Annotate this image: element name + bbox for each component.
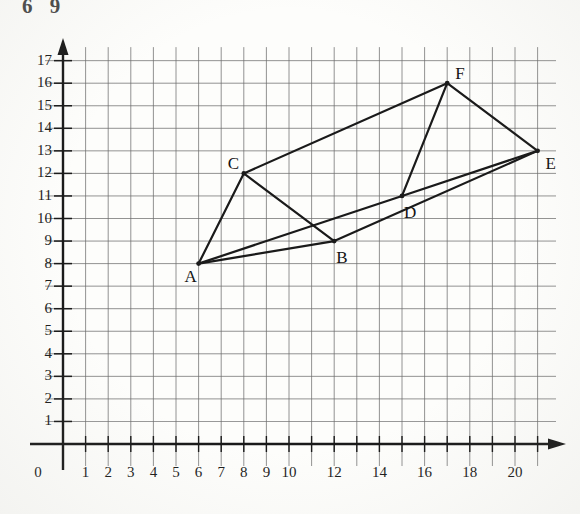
origin-label-0: 0: [27, 465, 49, 480]
y-tick-label-13: 13: [20, 143, 52, 158]
vertex-A: [196, 261, 201, 266]
vertex-label-D: D: [404, 204, 416, 221]
x-tick-label-14: 14: [367, 465, 391, 480]
y-tick-label-3: 3: [20, 368, 52, 383]
y-tick-label-14: 14: [20, 120, 52, 135]
vertex-label-F: F: [455, 65, 464, 82]
vertex-label-E: E: [546, 155, 556, 172]
y-tick-label-6: 6: [20, 301, 52, 316]
figure-edge-AD: [199, 196, 402, 264]
y-tick-label-11: 11: [20, 188, 52, 203]
x-tick-label-3: 3: [119, 465, 143, 480]
x-tick-label-12: 12: [322, 465, 346, 480]
vertex-D: [400, 194, 405, 199]
grid-lines: [45, 47, 556, 466]
vertex-F: [445, 81, 450, 86]
vertex-C: [241, 171, 246, 176]
x-tick-label-6: 6: [187, 465, 211, 480]
y-tick-label-4: 4: [20, 346, 52, 361]
scanned-page: 6 9 1234567891011121314151617 0123456789…: [0, 0, 580, 514]
y-tick-label-5: 5: [20, 323, 52, 338]
vertex-label-A: A: [185, 268, 197, 285]
x-tick-label-2: 2: [96, 465, 120, 480]
y-tick-label-9: 9: [20, 233, 52, 248]
vertex-E: [535, 148, 540, 153]
x-tick-label-1: 1: [74, 465, 98, 480]
y-tick-label-8: 8: [20, 256, 52, 271]
y-tick-label-12: 12: [20, 165, 52, 180]
x-tick-label-20: 20: [503, 465, 527, 480]
y-tick-label-10: 10: [20, 211, 52, 226]
vertex-label-C: C: [228, 155, 239, 172]
y-tick-label-2: 2: [20, 391, 52, 406]
y-tick-label-17: 17: [20, 53, 52, 68]
y-axis-arrowhead: [58, 38, 69, 55]
coordinate-plot: [0, 0, 580, 514]
axis-ticks: [54, 61, 538, 452]
x-tick-label-18: 18: [458, 465, 482, 480]
y-tick-label-1: 1: [20, 413, 52, 428]
x-tick-label-4: 4: [141, 465, 165, 480]
y-tick-label-16: 16: [20, 75, 52, 90]
x-tick-label-7: 7: [209, 465, 233, 480]
x-tick-label-5: 5: [164, 465, 188, 480]
y-tick-label-7: 7: [20, 278, 52, 293]
x-tick-label-16: 16: [413, 465, 437, 480]
axes: [30, 38, 566, 470]
x-axis-arrowhead: [548, 439, 566, 450]
vertex-B: [332, 239, 337, 244]
x-tick-label-9: 9: [254, 465, 278, 480]
y-tick-label-15: 15: [20, 98, 52, 113]
x-tick-label-8: 8: [232, 465, 256, 480]
vertex-label-B: B: [336, 249, 347, 266]
x-tick-label-10: 10: [277, 465, 301, 480]
